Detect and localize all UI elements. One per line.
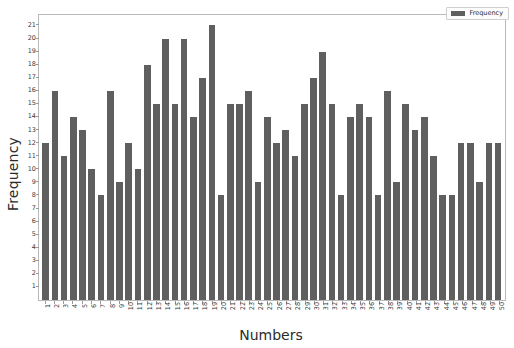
bar — [264, 117, 271, 300]
y-axis-tick-mark — [36, 64, 39, 65]
bar — [218, 195, 225, 300]
bar — [338, 195, 345, 300]
y-axis-tick-mark — [36, 129, 39, 130]
y-axis-tick-mark — [36, 155, 39, 156]
x-axis-tick: 10 — [125, 301, 132, 327]
bar — [282, 130, 289, 300]
x-axis-tick: 22 — [236, 301, 243, 327]
x-axis-tick: 11 — [134, 301, 141, 327]
x-axis-tick: 50 — [496, 301, 503, 327]
bar — [347, 117, 354, 300]
bar — [70, 117, 77, 300]
y-axis-tick-label: 14 — [28, 114, 36, 121]
x-axis-tick: 34 — [348, 301, 355, 327]
y-axis-tick-label: 20 — [28, 35, 36, 42]
x-axis-tick: 40 — [403, 301, 410, 327]
bar — [52, 91, 59, 300]
x-axis-tick: 9 — [116, 301, 123, 327]
y-axis-tick-label: 19 — [28, 48, 36, 55]
y-axis-tick-mark — [36, 260, 39, 261]
bar — [467, 143, 474, 300]
x-axis-tick: 46 — [459, 301, 466, 327]
y-axis-tick-label: 10 — [28, 166, 36, 173]
x-axis-tick: 30 — [310, 301, 317, 327]
x-axis-tick: 25 — [264, 301, 271, 327]
x-axis-tick: 1 — [41, 301, 48, 327]
y-axis-tick-label: 11 — [28, 153, 36, 160]
y-axis-tick-mark — [36, 247, 39, 248]
bar — [107, 91, 114, 300]
x-axis-tick: 19 — [208, 301, 215, 327]
y-axis-title-text: Frequency — [5, 137, 21, 211]
bar — [439, 195, 446, 300]
y-axis-tick-mark — [36, 103, 39, 104]
x-axis-title: Numbers — [34, 327, 508, 343]
y-axis-tick-mark — [36, 90, 39, 91]
bar — [209, 25, 216, 300]
bar — [255, 182, 262, 300]
bar — [190, 117, 197, 300]
y-axis-tick-mark — [36, 286, 39, 287]
x-axis-tick: 42 — [422, 301, 429, 327]
bar — [393, 182, 400, 300]
x-axis-tick: 5 — [78, 301, 85, 327]
y-axis-tick-mark — [36, 273, 39, 274]
bar — [125, 143, 132, 300]
y-axis-tick-mark — [36, 38, 39, 39]
x-axis-tick: 17 — [190, 301, 197, 327]
legend-label-frequency: Frequency — [469, 10, 503, 17]
y-axis-tick-mark — [36, 208, 39, 209]
y-axis-tick-label: 15 — [28, 101, 36, 108]
y-axis-tick-label: 12 — [28, 140, 36, 147]
y-axis-tick-mark — [36, 142, 39, 143]
x-axis-tick: 16 — [181, 301, 188, 327]
y-axis-tick-label: 16 — [28, 88, 36, 95]
bar — [162, 39, 169, 300]
y-axis-title: Frequency — [2, 0, 24, 348]
x-axis-tick: 14 — [162, 301, 169, 327]
y-axis-tick-label: 3 — [32, 258, 36, 265]
x-axis-tick: 37 — [375, 301, 382, 327]
y-axis-tick-label: 9 — [32, 179, 36, 186]
y-axis-tick-label: 5 — [32, 231, 36, 238]
y-axis-tick-mark — [36, 194, 39, 195]
y-axis-tick-mark — [36, 168, 39, 169]
x-axis-tick: 36 — [366, 301, 373, 327]
y-axis-tick-mark — [36, 116, 39, 117]
x-axis-tick: 35 — [357, 301, 364, 327]
bar — [153, 104, 160, 300]
bar — [245, 91, 252, 300]
x-axis-tick: 24 — [255, 301, 262, 327]
bar — [61, 156, 68, 300]
bar — [375, 195, 382, 300]
bar — [116, 182, 123, 300]
bar — [366, 117, 373, 300]
bar — [301, 104, 308, 300]
x-axis-tick: 38 — [385, 301, 392, 327]
bar — [384, 91, 391, 300]
x-axis-tick: 7 — [97, 301, 104, 327]
y-axis-tick-mark — [36, 181, 39, 182]
x-axis-tick: 4 — [69, 301, 76, 327]
bar — [329, 104, 336, 300]
x-axis-tick: 3 — [60, 301, 67, 327]
x-axis-tick: 8 — [106, 301, 113, 327]
x-axis-tick: 43 — [431, 301, 438, 327]
bar — [402, 104, 409, 300]
bar — [310, 78, 317, 300]
x-axis-tick: 2 — [51, 301, 58, 327]
chart-legend: Frequency — [446, 7, 509, 20]
x-axis-tick: 31 — [320, 301, 327, 327]
bar-series-frequency — [39, 15, 505, 300]
y-axis-tick-label: 1 — [32, 284, 36, 291]
y-axis-tick-label: 17 — [28, 75, 36, 82]
bar — [430, 156, 437, 300]
x-axis-tick: 44 — [440, 301, 447, 327]
y-axis-tick-label: 4 — [32, 244, 36, 251]
bar — [476, 182, 483, 300]
x-axis-tick: 20 — [218, 301, 225, 327]
bar — [486, 143, 493, 300]
bar — [181, 39, 188, 300]
bar — [412, 130, 419, 300]
bar — [449, 195, 456, 300]
